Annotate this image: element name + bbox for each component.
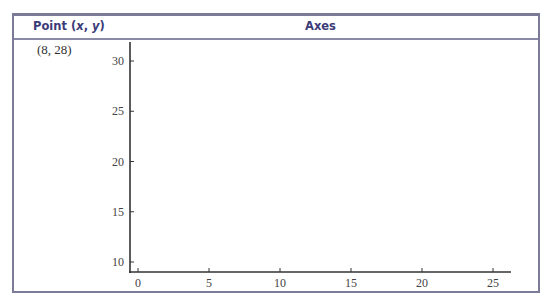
x-tick-label: 25 [487,276,499,290]
y-tick-label: 25 [112,104,124,118]
y-tick-label: 20 [112,155,124,169]
x-tick-label: 0 [135,276,141,290]
y-tick-label: 15 [112,205,124,219]
y-tick-label: 30 [112,54,124,68]
x-tick-label: 15 [345,276,357,290]
x-tick-label: 20 [416,276,428,290]
x-tick-label: 5 [206,276,212,290]
y-tick-label: 10 [112,255,124,269]
empty-axes-chart: 10152025300510152025 [0,0,548,304]
x-tick-label: 10 [274,276,286,290]
